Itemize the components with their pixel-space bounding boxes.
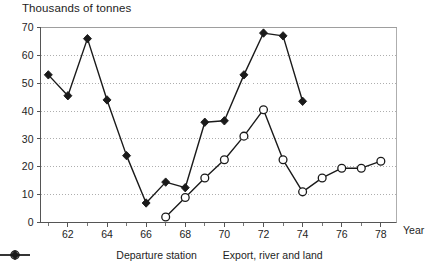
legend-item-export-river-land: Export, river and land (223, 249, 323, 261)
svg-text:60: 60 (22, 49, 34, 61)
svg-text:62: 62 (62, 228, 74, 240)
svg-text:70: 70 (219, 228, 231, 240)
x-axis-tick-labels: 626466687072747678 (62, 228, 387, 240)
svg-text:76: 76 (336, 228, 348, 240)
svg-text:10: 10 (22, 188, 34, 200)
svg-text:74: 74 (297, 228, 309, 240)
svg-text:72: 72 (258, 228, 270, 240)
svg-text:64: 64 (101, 228, 113, 240)
legend-label-departure-station: Departure station (116, 249, 197, 261)
svg-text:20: 20 (22, 160, 34, 172)
svg-text:66: 66 (140, 228, 152, 240)
plot-area: 626466687072747678 010203040506070 (0, 0, 439, 276)
svg-text:0: 0 (28, 216, 34, 228)
svg-text:70: 70 (22, 21, 34, 33)
data-series-lines (48, 33, 381, 217)
filled-diamond-marker-icon (0, 249, 30, 261)
y-axis-tick-labels: 010203040506070 (22, 21, 34, 228)
x-axis-ticks (48, 223, 381, 228)
svg-text:78: 78 (375, 228, 387, 240)
legend-label-export-river-land: Export, river and land (223, 249, 323, 261)
chart-legend: Departure station Export, river and land (0, 249, 439, 261)
svg-text:68: 68 (179, 228, 191, 240)
legend-item-departure-station: Departure station (116, 249, 197, 261)
svg-text:50: 50 (22, 77, 34, 89)
svg-text:30: 30 (22, 133, 34, 145)
data-series-markers (44, 29, 384, 221)
line-chart: Thousands of tonnes Year 626466687072747… (0, 0, 439, 276)
svg-text:40: 40 (22, 105, 34, 117)
